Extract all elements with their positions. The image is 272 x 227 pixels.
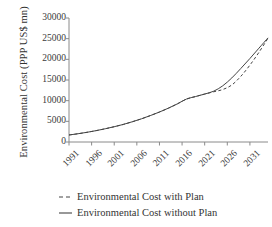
dashed-line-marker-icon	[58, 191, 74, 203]
chart-legend: Environmental Cost with Plan Environment…	[0, 190, 272, 227]
legend-item-with-plan: Environmental Cost with Plan	[58, 190, 204, 204]
legend-label-without-plan: Environmental Cost without Plan	[77, 207, 217, 219]
solid-line-marker-icon	[58, 207, 74, 219]
legend-label-with-plan: Environmental Cost with Plan	[77, 191, 204, 203]
legend-item-without-plan: Environmental Cost without Plan	[58, 206, 217, 220]
environmental-cost-chart: Environmental Cost (PPP US$ mn) 05000100…	[0, 0, 272, 227]
x-axis-tick-labels: 199119962001200620112016202120262031	[0, 0, 272, 190]
